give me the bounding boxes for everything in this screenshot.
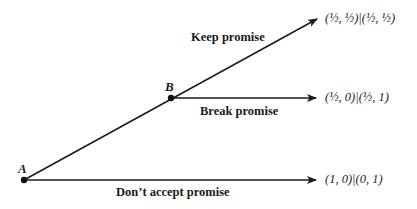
node-a-label: A xyxy=(18,161,27,177)
move-break-promise: Break promise xyxy=(200,104,278,119)
move-dont-accept: Don’t accept promise xyxy=(116,185,230,200)
payoff-dont-accept: (1, 0)|(0, 1) xyxy=(325,172,383,187)
node-b-dot xyxy=(168,95,174,101)
move-keep-promise: Keep promise xyxy=(191,30,265,45)
node-a-dot xyxy=(21,177,27,183)
payoff-break: (½, 0)|(½, 1) xyxy=(325,90,389,105)
node-b-label: B xyxy=(165,79,174,95)
payoff-keep: (½, ½)|(½, ½) xyxy=(325,11,395,26)
